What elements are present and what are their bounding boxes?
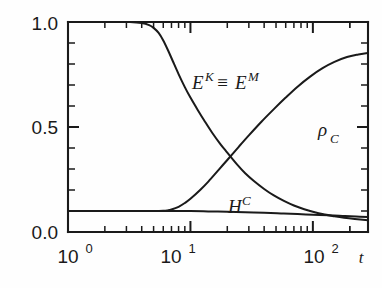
- x-tick-label-1: 10 1: [160, 241, 195, 267]
- annotation-density: ρ C: [317, 119, 339, 146]
- figure-panel: 0.0 0.5 1.0 10 0 10 1 10 2 t E K ≡ E M ρ: [0, 0, 382, 288]
- annotation-energy-equiv: ≡: [216, 72, 229, 93]
- x-tick-label-2-mantissa: 10: [303, 246, 324, 267]
- annotation-helicity-base: H: [227, 196, 243, 217]
- y-tick-label-0: 0.0: [32, 222, 58, 243]
- x-tick-label-0-exponent: 0: [85, 241, 92, 256]
- x-tick-label-1-mantissa: 10: [160, 246, 181, 267]
- annotation-energy-sup1: K: [204, 69, 215, 84]
- x-tick-label-0: 10 0: [57, 241, 92, 267]
- x-axis-title: t: [359, 248, 365, 267]
- annotation-energy: E K ≡ E M: [191, 69, 260, 93]
- x-tick-label-0-mantissa: 10: [57, 246, 78, 267]
- x-tick-label-2-exponent: 2: [331, 241, 338, 256]
- y-tick-label-1: 0.5: [32, 117, 58, 138]
- y-tick-label-2: 1.0: [32, 13, 58, 34]
- x-tick-label-2: 10 2: [303, 241, 338, 267]
- annotation-helicity-sup: C: [242, 193, 251, 208]
- annotation-energy-sup2: M: [247, 69, 260, 84]
- annotation-energy-base2: E: [234, 72, 247, 93]
- annotation-energy-base1: E: [191, 72, 204, 93]
- chart-canvas: 0.0 0.5 1.0 10 0 10 1 10 2 t E K ≡ E M ρ: [0, 0, 382, 288]
- annotation-density-sub: C: [330, 131, 339, 146]
- annotation-density-base: ρ: [317, 119, 327, 140]
- annotation-helicity: H C: [227, 193, 251, 217]
- x-tick-label-1-exponent: 1: [188, 241, 195, 256]
